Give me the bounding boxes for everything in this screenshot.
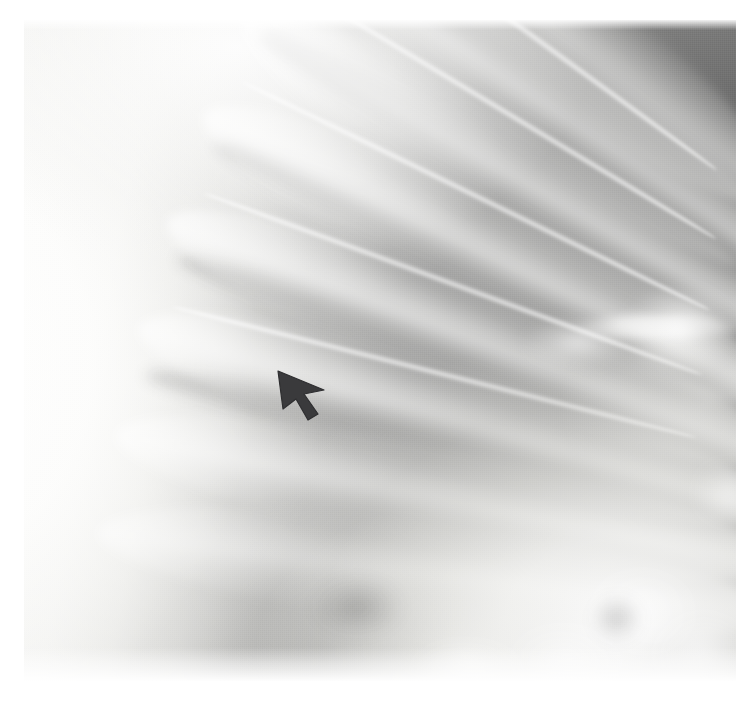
radiograph-viewer [0, 0, 740, 709]
apical-soft-tissue-glow [24, 20, 736, 681]
radiograph-film [24, 20, 736, 681]
